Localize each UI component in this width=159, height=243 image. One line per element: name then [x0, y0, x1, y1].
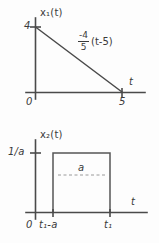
y-tick-label-4: 4: [24, 21, 31, 31]
x-axis-label-x2: t: [131, 197, 135, 207]
figure-sheet: x₁(t) t 4 0 5 -4 5 (t-5): [0, 0, 159, 243]
x-axis-label-x1: t: [129, 77, 133, 87]
slope-numerator: -4: [78, 31, 89, 41]
x-tick-label-t1-minus-a: t₁-a: [39, 220, 57, 230]
figure-x1: x₁(t) t 4 0 5 -4 5 (t-5): [0, 0, 159, 120]
slope-annotation-x1: -4 5 (t-5): [78, 31, 113, 52]
y-axis-label-x2: x₂(t): [40, 130, 63, 140]
slope-fraction: -4 5: [78, 31, 89, 52]
pulse-width-label: a: [78, 163, 84, 173]
x-tick-label-5: 5: [119, 97, 126, 107]
figure-x2-canvas: [0, 118, 159, 243]
figure-x2: x₂(t) t 1/a 0 t₁-a t₁ a: [0, 118, 159, 243]
slope-tail: (t-5): [89, 36, 113, 47]
slope-denominator: 5: [80, 42, 88, 52]
origin-label-x2: 0: [26, 220, 33, 230]
origin-label-x1: 0: [26, 97, 33, 107]
y-axis-label-x1: x₁(t): [40, 8, 63, 18]
y-tick-label-one-over-a: 1/a: [8, 147, 24, 157]
x-tick-label-t1: t₁: [104, 220, 112, 230]
figure-x1-canvas: [0, 0, 159, 120]
